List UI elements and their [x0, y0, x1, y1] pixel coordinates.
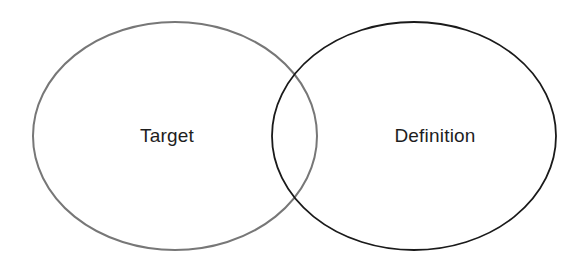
target-label: Target	[140, 125, 195, 146]
definition-label: Definition	[394, 125, 475, 146]
venn-diagram: Target Definition	[0, 0, 582, 270]
